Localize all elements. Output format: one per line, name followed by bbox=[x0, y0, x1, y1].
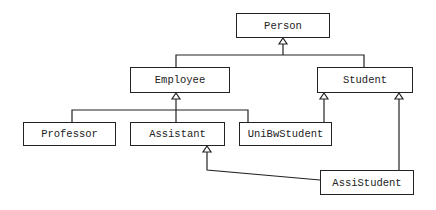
class-unibwstudent: UniBwStudent bbox=[239, 122, 332, 146]
class-assistant: Assistant bbox=[130, 122, 225, 146]
class-label: Assistant bbox=[149, 128, 206, 140]
class-professor: Professor bbox=[23, 122, 116, 146]
class-label: Professor bbox=[41, 128, 98, 140]
class-label: Employee bbox=[155, 74, 205, 86]
class-label: UniBwStudent bbox=[248, 128, 324, 140]
generalization-arrowhead bbox=[172, 93, 180, 99]
class-student: Student bbox=[317, 67, 413, 93]
generalization-arrowhead bbox=[203, 146, 211, 152]
class-label: AssiStudent bbox=[332, 177, 401, 189]
class-assistudent: AssiStudent bbox=[320, 170, 414, 195]
generalization-arrowhead bbox=[320, 93, 328, 99]
class-employee: Employee bbox=[130, 67, 230, 93]
class-label: Student bbox=[343, 74, 387, 86]
class-person: Person bbox=[236, 13, 330, 38]
class-label: Person bbox=[264, 20, 302, 32]
generalization-arrowhead bbox=[279, 38, 287, 44]
generalization-arrowhead bbox=[395, 93, 403, 99]
